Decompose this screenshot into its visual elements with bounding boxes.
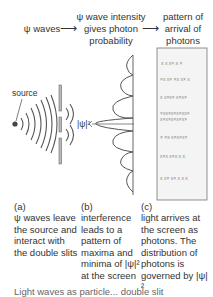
wave-arcs-icon	[21, 95, 57, 153]
caption-c-tag: (c)	[141, 201, 152, 213]
svg-text:x x×x× x×x×: x x×x× x×x×	[160, 94, 187, 100]
caption-b-tag: (b)	[81, 201, 93, 213]
svg-text:×x x× ×x x× x: ×x x× ×x x× x	[160, 76, 190, 82]
svg-text:x x x× x ×: x x x× x ×	[161, 60, 182, 66]
caption-b-text: interference leads to a pattern of maxim…	[81, 212, 143, 281]
double-slit-barrier-icon	[59, 85, 62, 164]
source-label: source	[12, 88, 38, 98]
svg-text:x x× x× x x x: x x× x× x x x	[160, 175, 188, 181]
svg-text:x×x x×x x x: x×x x×x x x	[160, 153, 186, 159]
svg-text:x×x×x×x×x×: x×x×x×x×x×	[160, 116, 187, 122]
caption-a-text: ψ waves leave the source and interact wi…	[14, 212, 80, 258]
source-dot-icon	[12, 121, 17, 126]
svg-text:× ×x x×x×x×: × ×x x×x×x×	[160, 134, 187, 140]
caption-a-tag: (a)	[14, 201, 26, 213]
caption-c-text: light arrives at the screen as photons. …	[141, 212, 209, 293]
diffracted-wave-icon	[66, 104, 74, 145]
interference-curve	[96, 55, 133, 192]
intensity-label: |ψ|²	[77, 119, 90, 129]
cropped-footer-text: Light waves as particle... double slit	[14, 286, 163, 297]
